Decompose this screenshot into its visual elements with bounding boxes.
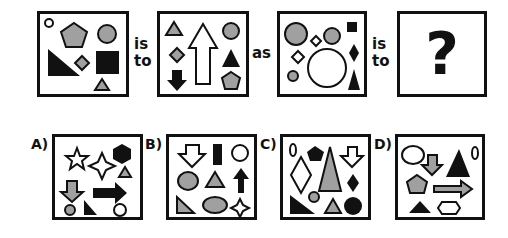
white-ellipse-icon — [402, 146, 424, 164]
gray-diamond-icon — [170, 48, 184, 62]
gray-circle-icon — [98, 25, 116, 43]
white-circle-icon — [114, 204, 126, 216]
gray-right-arrow-icon — [434, 181, 472, 197]
white-diamond-icon — [311, 36, 321, 46]
gray-ellipse-icon — [203, 197, 227, 213]
black-triangle-icon — [222, 49, 240, 67]
white-up-arrow-icon — [189, 24, 217, 84]
connector-is-to-2: is to — [372, 36, 389, 70]
black-down-arrow-icon — [167, 70, 187, 91]
connector-to: to — [372, 53, 389, 70]
analogy-box-1 — [37, 11, 129, 97]
black-square-icon — [347, 22, 357, 32]
option-c-box[interactable] — [280, 134, 371, 220]
option-c-shapes — [283, 137, 368, 217]
option-d-box[interactable] — [395, 134, 485, 220]
gray-pentagon-icon — [222, 72, 240, 89]
option-b-box[interactable] — [166, 134, 257, 220]
large-white-circle-icon — [308, 49, 346, 87]
gray-circle-icon — [223, 23, 239, 39]
black-circle-icon — [344, 197, 362, 215]
black-square-icon — [96, 51, 119, 74]
small-gray-circle-icon — [288, 71, 298, 81]
option-a-label: A) — [31, 136, 48, 152]
option-d-label: D) — [374, 136, 392, 152]
box1-shapes — [40, 14, 126, 94]
white-diamond-icon — [291, 157, 311, 193]
gray-circle-icon — [178, 172, 198, 190]
white-four-point-star-icon — [89, 153, 115, 179]
large-gray-circle-icon — [285, 23, 307, 45]
analogy-box-2 — [157, 11, 249, 97]
white-zero-oval-icon — [472, 147, 478, 159]
gray-triangle-icon — [119, 167, 131, 177]
box3-shapes — [280, 14, 364, 94]
gray-down-arrow-icon — [422, 155, 442, 175]
connector-is-to-1: is to — [134, 36, 151, 70]
black-up-arrow-icon — [233, 168, 249, 193]
gray-circle-icon — [309, 192, 319, 202]
gray-pentagon-icon — [407, 175, 427, 193]
black-hexagon-icon — [113, 144, 131, 164]
gray-down-arrow-icon — [61, 181, 83, 202]
box2-shapes — [160, 14, 246, 94]
white-four-point-star-icon — [231, 199, 249, 217]
black-pentagon-icon — [307, 146, 324, 161]
connector-to: to — [134, 53, 151, 70]
black-diamond-icon — [347, 174, 359, 192]
option-c-label: C) — [260, 136, 277, 152]
gray-right-triangle-icon — [177, 197, 194, 213]
gray-triangle-icon — [325, 199, 341, 213]
option-a-box[interactable] — [52, 134, 143, 220]
gray-circle-icon — [324, 28, 340, 44]
white-zero-oval-icon — [290, 144, 296, 156]
gray-circle-icon — [65, 205, 75, 215]
gray-diamond-icon — [75, 56, 89, 70]
question-mark-icon: ? — [400, 20, 484, 88]
white-star-icon — [66, 148, 88, 169]
connector-as: as — [252, 45, 271, 62]
black-triangle-icon — [348, 69, 360, 90]
black-right-arrow-icon — [93, 182, 127, 204]
analogy-box-3 — [277, 11, 367, 97]
black-triangle-icon — [446, 149, 470, 177]
analogy-box-4-unknown: ? — [397, 11, 487, 97]
option-b-shapes — [169, 137, 254, 217]
option-d-shapes — [398, 137, 482, 217]
white-circle-icon — [232, 145, 248, 161]
small-white-circle-icon — [45, 19, 53, 27]
gray-triangle-icon — [206, 172, 224, 187]
black-triangle-icon — [409, 201, 431, 213]
connector-is: is — [134, 36, 151, 53]
black-right-triangle-icon — [84, 200, 97, 215]
white-down-arrow-icon — [341, 147, 363, 167]
option-a-shapes — [55, 137, 140, 217]
white-diamond-icon — [292, 51, 304, 63]
white-down-arrow-icon — [179, 145, 205, 167]
gray-triangle-icon — [166, 22, 182, 35]
connector-is: is — [372, 36, 389, 53]
white-hexagon-icon — [438, 202, 460, 214]
black-diamond-icon — [349, 44, 359, 62]
gray-triangle-icon — [95, 79, 109, 90]
black-rectangle-icon — [213, 144, 222, 165]
gray-pentagon-icon — [61, 23, 87, 47]
option-b-label: B) — [145, 136, 162, 152]
